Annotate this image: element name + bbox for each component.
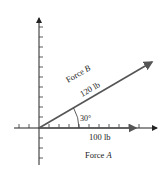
force-a-magnitude: 100 lb	[89, 132, 111, 142]
force-b-magnitude: 120 lb	[78, 79, 102, 98]
force-a-label: Force A	[85, 150, 112, 160]
force-b-vector	[39, 62, 152, 128]
force-diagram: 30° 120 lb Force B 100 lb Force A	[0, 0, 168, 172]
angle-label: 30°	[80, 114, 91, 123]
y-axis	[39, 18, 43, 165]
force-b-label: Force B	[64, 63, 92, 85]
angle-arc	[74, 108, 79, 128]
